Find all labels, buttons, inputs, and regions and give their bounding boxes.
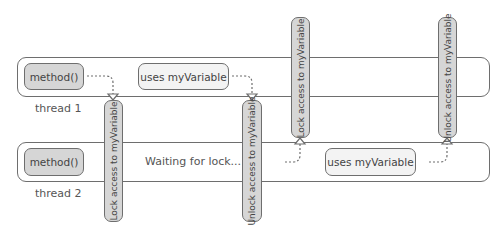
thread-1-unlock-bar-label: Unlock access to myVariable bbox=[247, 97, 257, 226]
thread-1-method-label: method() bbox=[30, 71, 79, 83]
thread-1-method-box: method() bbox=[24, 63, 84, 90]
thread-2-method-label: method() bbox=[30, 156, 79, 168]
thread-2-label: thread 2 bbox=[35, 187, 82, 200]
thread-1-label: thread 1 bbox=[35, 102, 82, 115]
thread-1-uses-label: uses myVariable bbox=[140, 71, 226, 83]
thread-1-lock-bar-label: Lock access to myVariable bbox=[109, 102, 119, 221]
thread-2-lock-bar: Lock access to myVariable bbox=[291, 17, 310, 138]
thread-2-unlock-bar: Unlock access to myVariable bbox=[438, 17, 457, 138]
thread-1-unlock-bar: Unlock access to myVariable bbox=[242, 100, 262, 222]
waiting-for-lock-text: Waiting for lock... bbox=[145, 155, 241, 168]
thread-2-unlock-bar-label: Unlock access to myVariable bbox=[443, 13, 453, 142]
thread-2-uses-label: uses myVariable bbox=[327, 156, 413, 168]
thread-1-uses-variable-box: uses myVariable bbox=[138, 63, 229, 90]
thread-2-method-box: method() bbox=[24, 148, 84, 176]
thread-2-lock-bar-label: Lock access to myVariable bbox=[296, 18, 306, 137]
thread-2-uses-variable-box: uses myVariable bbox=[325, 148, 416, 176]
thread-1-lock-bar: Lock access to myVariable bbox=[104, 100, 123, 222]
